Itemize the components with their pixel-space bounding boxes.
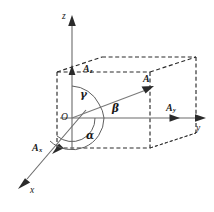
- component-ax-base: A: [32, 142, 39, 153]
- box-edge-depth-bottom-right: [150, 133, 196, 148]
- origin-label: O: [61, 113, 68, 123]
- y-axis-arrowhead: [195, 114, 206, 122]
- angle-beta-label: β: [112, 103, 119, 114]
- component-ay-sub: y: [173, 106, 176, 113]
- component-az-sub: z: [90, 67, 93, 74]
- x-axis-label: x: [30, 186, 34, 196]
- component-ax-label: Ax: [32, 143, 42, 154]
- box-edge-depth-top-left: [57, 57, 102, 72]
- box-edge-depth-top-right: [150, 57, 196, 72]
- y-axis-label: y: [196, 124, 200, 134]
- point-a-label: A: [143, 74, 150, 84]
- z-axis-arrowhead: [68, 15, 76, 26]
- component-az-label: Az: [83, 64, 93, 75]
- diagram-canvas: [0, 0, 214, 212]
- component-ay-label: Ay: [166, 103, 176, 114]
- component-ay-base: A: [166, 102, 173, 113]
- component-ay-arrowhead: [170, 114, 181, 121]
- z-axis-label: z: [62, 12, 66, 22]
- component-ax-sub: x: [39, 146, 43, 153]
- vector-a-arrowhead: [142, 86, 155, 94]
- angle-alpha-label: α: [86, 130, 94, 141]
- component-az-base: A: [83, 63, 90, 74]
- component-az-arrowhead: [69, 65, 76, 75]
- x-axis-arrowhead: [18, 178, 30, 189]
- vector-diagram-figure: z y x O A Az Ay Ax γ β α: [0, 0, 214, 212]
- angle-gamma-label: γ: [80, 89, 87, 100]
